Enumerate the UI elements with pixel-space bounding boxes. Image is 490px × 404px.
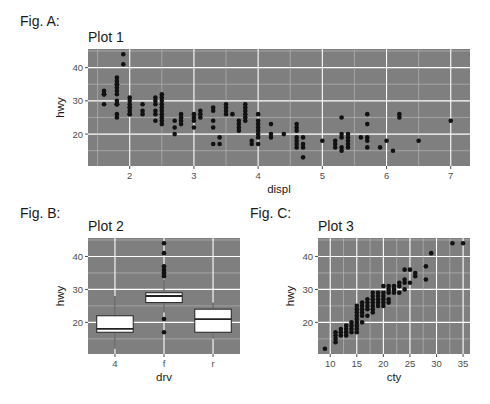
data-point (365, 122, 370, 127)
data-point (237, 128, 242, 133)
data-point (346, 145, 351, 150)
data-point (140, 109, 145, 114)
x-tick-label: 4 (112, 358, 117, 369)
data-point (349, 320, 354, 325)
data-point (365, 313, 370, 318)
y-tick-label: 40 (72, 251, 83, 262)
data-point (402, 287, 407, 292)
data-point (408, 267, 413, 272)
data-point (192, 125, 197, 130)
data-point (386, 297, 391, 302)
x-tick-label: 20 (378, 358, 389, 369)
data-point (211, 109, 216, 114)
data-point (365, 138, 370, 143)
data-point (344, 323, 349, 328)
y-axis-title: hwy (54, 286, 66, 307)
data-point (282, 132, 287, 137)
data-point (269, 135, 274, 140)
data-point (115, 79, 120, 84)
x-tick-label: 2 (127, 170, 132, 181)
data-point (429, 251, 434, 256)
x-axis-title: displ (267, 183, 291, 195)
data-point (386, 284, 391, 289)
data-point (115, 92, 120, 97)
data-point (416, 138, 421, 143)
outlier-point (162, 274, 167, 279)
x-tick-label: 7 (448, 170, 453, 181)
data-point (115, 99, 120, 104)
data-point (102, 102, 107, 107)
outlier-point (162, 241, 167, 246)
data-point (339, 148, 344, 153)
data-point (376, 290, 381, 295)
x-axis-title: cty (387, 371, 402, 383)
data-point (115, 115, 120, 120)
data-point (359, 135, 364, 140)
outlier-point (162, 251, 167, 256)
data-point (256, 135, 261, 140)
data-point (294, 145, 299, 150)
data-point (153, 112, 158, 117)
data-point (378, 145, 383, 150)
x-tick-label: 25 (405, 358, 416, 369)
data-point (269, 122, 274, 127)
data-point (192, 118, 197, 123)
data-point (365, 145, 370, 150)
data-point (160, 122, 165, 127)
data-point (370, 290, 375, 295)
data-point (381, 284, 386, 289)
y-tick-label: 20 (72, 129, 83, 140)
data-point (140, 102, 145, 107)
plot-1-scatter-displ-hwy: 203040hwy234567displ (54, 49, 470, 195)
data-point (172, 132, 177, 137)
data-point (301, 155, 306, 160)
data-point (294, 128, 299, 133)
data-point (179, 122, 184, 127)
data-point (320, 138, 325, 143)
data-point (153, 118, 158, 123)
y-tick-label: 40 (72, 62, 83, 73)
x-tick-label: 30 (431, 358, 442, 369)
outlier-point (162, 330, 167, 335)
data-point (323, 346, 328, 351)
x-tick-label: r (211, 358, 214, 369)
data-point (402, 277, 407, 282)
x-tick-label: 15 (352, 358, 363, 369)
y-tick-label: 20 (72, 317, 83, 328)
data-point (339, 115, 344, 120)
x-tick-label: 5 (320, 170, 325, 181)
data-point (397, 290, 402, 295)
data-point (256, 112, 261, 117)
data-point (360, 300, 365, 305)
data-point (127, 112, 132, 117)
x-tick-label: 35 (458, 358, 469, 369)
data-point (249, 142, 254, 147)
data-point (121, 52, 126, 57)
x-tick-label: 6 (384, 170, 389, 181)
data-point (172, 118, 177, 123)
data-point (211, 125, 216, 130)
data-point (217, 135, 222, 140)
plot-2-boxplot-drv-hwy: 203040hwy4frdrv (54, 238, 240, 383)
data-point (450, 241, 455, 246)
outlier-point (162, 317, 167, 322)
data-point (256, 142, 261, 147)
data-point (424, 277, 429, 282)
charts-canvas: 203040hwy234567displ 203040hwy4frdrv 203… (0, 0, 490, 404)
data-point (333, 330, 338, 335)
x-tick-label: 10 (325, 358, 336, 369)
data-point (153, 102, 158, 107)
plot-panel (88, 49, 470, 166)
data-point (408, 281, 413, 286)
data-point (365, 112, 370, 117)
y-tick-label: 30 (72, 95, 83, 106)
y-axis-title: hwy (284, 286, 296, 307)
data-point (211, 142, 216, 147)
data-point (339, 327, 344, 332)
data-point (211, 118, 216, 123)
data-point (354, 304, 359, 309)
data-point (224, 112, 229, 117)
data-point (413, 271, 418, 276)
data-point (424, 264, 429, 269)
y-tick-label: 40 (302, 251, 313, 262)
